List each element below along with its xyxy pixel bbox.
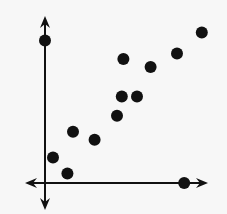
scatter-chart: [0, 0, 227, 214]
data-point: [117, 53, 129, 65]
data-point: [89, 134, 101, 146]
data-points: [39, 27, 208, 189]
data-point: [196, 27, 208, 39]
data-point: [116, 91, 128, 103]
data-point: [178, 177, 190, 189]
data-point: [111, 110, 123, 122]
data-point: [67, 126, 79, 138]
data-point: [145, 61, 157, 73]
data-point: [61, 167, 73, 179]
data-point: [47, 151, 59, 163]
data-point: [39, 35, 51, 47]
data-point: [171, 47, 183, 59]
data-point: [131, 91, 143, 103]
